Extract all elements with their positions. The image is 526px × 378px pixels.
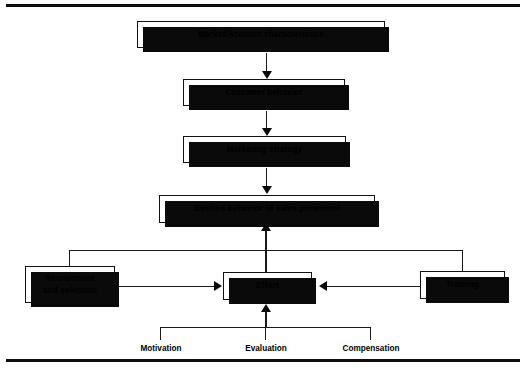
arrowhead-lower-bus-to-effort [261,304,271,312]
arrowhead-customer-to-strategy [262,128,272,136]
edge-strategy-to-desired [266,168,267,188]
node-recruitment-and-selection: Recruitment and selection [25,266,115,303]
node-customer-behavior: Customer behavior [183,79,345,106]
arrowhead-strategy-to-desired [262,186,272,194]
node-label: Training [446,279,479,290]
edge-market-to-customer [266,53,267,73]
label-compensation: Compensation [334,344,408,353]
arrowhead-effort-to-desired [261,223,271,231]
label-evaluation: Evaluation [236,344,296,353]
flowchart-figure: Market/Account characteristics Customer … [0,0,526,378]
node-label: Marketing strategy [227,144,303,155]
label-motivation: Motivation [130,344,192,353]
arrowhead-market-to-customer [262,71,272,79]
node-label-line1: Recruitment [45,273,94,284]
bus-upper-right-drop [462,250,463,271]
bus-upper-horizontal [69,250,463,251]
top-rule [6,4,520,7]
node-desired-behavior: Desired behavior of sales personnel [159,195,375,223]
node-label-line2: and selection [43,285,97,296]
node-marketing-strategy: Marketing strategy [183,136,346,163]
node-market-account-characteristics: Market/Account characteristics [137,21,385,48]
edge-training-to-effort [327,286,420,287]
bus-lower-middle-stem [265,327,266,340]
edge-effort-to-desired [265,230,267,274]
edge-lower-bus-to-effort [265,312,267,328]
node-training: Training [420,271,505,299]
bottom-rule [6,359,520,362]
node-label: Effort [256,280,279,291]
node-label: Customer behavior [225,87,302,98]
bus-lower-left-stem [160,327,161,340]
edge-recruitment-to-effort [119,286,216,287]
arrowhead-training-to-effort [319,281,327,291]
node-effort: Effort [223,272,312,300]
node-label: Market/Account characteristics [198,29,324,40]
bus-upper-left-drop [69,250,70,267]
bus-lower-right-stem [370,327,371,340]
node-label: Desired behavior of sales personnel [194,203,340,214]
arrowhead-recruitment-to-effort [214,281,222,291]
